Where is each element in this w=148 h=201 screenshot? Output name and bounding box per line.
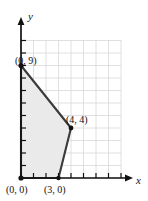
- coordinate-plane: [0, 0, 148, 201]
- point-label-origin: (0, 0): [6, 185, 28, 195]
- polygon-region-figure: y x (0, 9) (4, 4) (0, 0) (3, 0): [0, 0, 148, 201]
- x-axis-arrowhead: [125, 175, 133, 182]
- y-axis-label: y: [28, 11, 33, 22]
- vertex-dot-x-intercept: [56, 176, 60, 180]
- vertex-dot-origin: [18, 175, 23, 180]
- point-label-x-intercept: (3, 0): [44, 185, 66, 195]
- point-label-y-intercept: (0, 9): [15, 56, 37, 66]
- x-axis-label: x: [136, 175, 141, 186]
- y-axis-arrowhead: [18, 17, 25, 25]
- point-label-corner: (4, 4): [66, 115, 88, 125]
- vertex-dot-corner: [69, 126, 74, 131]
